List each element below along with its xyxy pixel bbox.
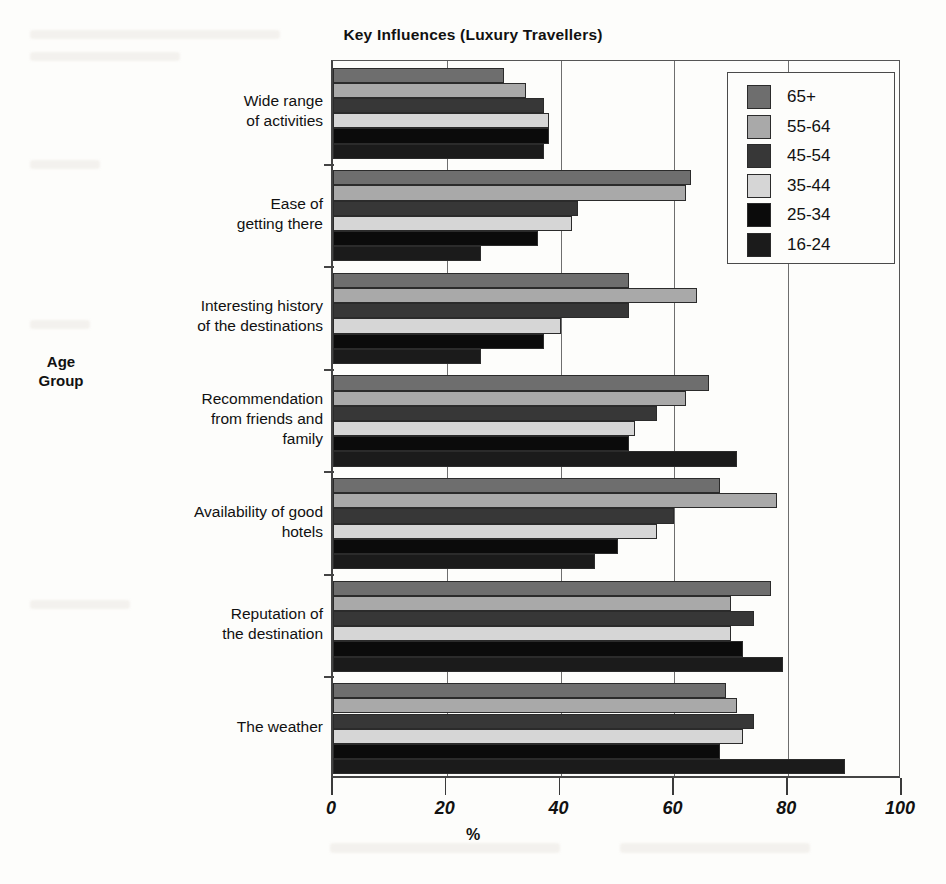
- y-axis-tick: [324, 574, 334, 576]
- bar[interactable]: [333, 611, 754, 626]
- bar[interactable]: [333, 451, 737, 466]
- category-label: Recommendationfrom friends andfamily: [98, 389, 323, 449]
- bar[interactable]: [333, 436, 629, 451]
- x-axis-label: 40: [549, 798, 569, 819]
- y-axis-title-line2: Group: [20, 371, 102, 390]
- x-axis-tick: [445, 778, 447, 795]
- bar[interactable]: [333, 349, 481, 364]
- bar[interactable]: [333, 524, 657, 539]
- bar[interactable]: [333, 231, 538, 246]
- legend-label: 45-54: [787, 146, 830, 166]
- category-label-line: hotels: [98, 522, 323, 542]
- x-axis-tick: [786, 778, 788, 795]
- bar-group: [333, 581, 899, 672]
- legend-swatch-icon: [747, 233, 771, 257]
- x-axis-tick: [900, 778, 902, 795]
- y-axis-tick: [324, 164, 334, 166]
- bar[interactable]: [333, 683, 726, 698]
- category-label: Wide rangeof activities: [98, 91, 323, 131]
- bar[interactable]: [333, 246, 481, 261]
- x-axis-tick: [331, 778, 333, 795]
- bar[interactable]: [333, 201, 578, 216]
- category-label: Interesting historyof the destinations: [98, 296, 323, 336]
- bar[interactable]: [333, 581, 771, 596]
- category-label-line: The weather: [98, 717, 323, 737]
- category-label-line: getting there: [98, 214, 323, 234]
- y-axis-tick: [324, 369, 334, 371]
- bar[interactable]: [333, 406, 657, 421]
- bar[interactable]: [333, 478, 720, 493]
- bar[interactable]: [333, 508, 674, 523]
- legend-item-16-24[interactable]: 16-24: [747, 233, 830, 257]
- bar[interactable]: [333, 83, 526, 98]
- category-label: Reputation ofthe destination: [98, 604, 323, 644]
- y-axis-tick: [324, 471, 334, 473]
- category-label-line: family: [98, 429, 323, 449]
- bar[interactable]: [333, 641, 743, 656]
- bar[interactable]: [333, 144, 544, 159]
- x-axis-label: 20: [435, 798, 455, 819]
- category-label-line: Availability of good: [98, 502, 323, 522]
- legend-item-25-34[interactable]: 25-34: [747, 203, 830, 227]
- bar[interactable]: [333, 698, 737, 713]
- legend-label: 65+: [787, 87, 816, 107]
- bar[interactable]: [333, 216, 572, 231]
- bar[interactable]: [333, 113, 549, 128]
- legend-swatch-icon: [747, 174, 771, 198]
- bar[interactable]: [333, 493, 777, 508]
- bar[interactable]: [333, 554, 595, 569]
- bar[interactable]: [333, 596, 731, 611]
- category-label-line: Ease of: [98, 194, 323, 214]
- bar[interactable]: [333, 128, 549, 143]
- bar[interactable]: [333, 421, 635, 436]
- legend-label: 16-24: [787, 235, 830, 255]
- category-label-line: of activities: [98, 111, 323, 131]
- bar[interactable]: [333, 744, 720, 759]
- bar[interactable]: [333, 318, 561, 333]
- legend-item-55-64[interactable]: 55-64: [747, 115, 830, 139]
- bar[interactable]: [333, 334, 544, 349]
- y-axis-tick: [324, 676, 334, 678]
- scan-artifact: [620, 843, 810, 853]
- bar[interactable]: [333, 375, 709, 390]
- bar[interactable]: [333, 714, 754, 729]
- category-label: Ease ofgetting there: [98, 194, 323, 234]
- category-label-line: of the destinations: [98, 316, 323, 336]
- bar[interactable]: [333, 68, 504, 83]
- bar-group: [333, 478, 899, 569]
- x-axis-label: 80: [776, 798, 796, 819]
- bar[interactable]: [333, 288, 697, 303]
- legend-swatch-icon: [747, 203, 771, 227]
- scan-artifact: [330, 843, 560, 853]
- legend-label: 35-44: [787, 176, 830, 196]
- bar[interactable]: [333, 391, 686, 406]
- bar[interactable]: [333, 185, 686, 200]
- y-axis-tick: [324, 266, 334, 268]
- bar[interactable]: [333, 170, 691, 185]
- bar-group: [333, 683, 899, 774]
- legend-item-65plus[interactable]: 65+: [747, 85, 816, 109]
- bar[interactable]: [333, 657, 783, 672]
- bar[interactable]: [333, 98, 544, 113]
- category-label: Availability of goodhotels: [98, 502, 323, 542]
- bar[interactable]: [333, 626, 731, 641]
- legend-item-35-44[interactable]: 35-44: [747, 174, 830, 198]
- x-axis-tick: [672, 778, 674, 795]
- category-label-line: Reputation of: [98, 604, 323, 624]
- y-axis-title: Age Group: [20, 352, 102, 390]
- bar[interactable]: [333, 273, 629, 288]
- legend-item-45-54[interactable]: 45-54: [747, 144, 830, 168]
- bar[interactable]: [333, 759, 845, 774]
- bar[interactable]: [333, 539, 618, 554]
- chart-title: Key Influences (Luxury Travellers): [0, 26, 946, 44]
- category-label-column: Wide rangeof activitiesEase ofgetting th…: [95, 60, 323, 778]
- bar[interactable]: [333, 303, 629, 318]
- y-axis-title-line1: Age: [20, 352, 102, 371]
- bar[interactable]: [333, 729, 743, 744]
- scan-artifact: [30, 320, 90, 329]
- legend-swatch-icon: [747, 85, 771, 109]
- x-axis-label: 60: [662, 798, 682, 819]
- category-label-line: the destination: [98, 624, 323, 644]
- category-label-line: from friends and: [98, 409, 323, 429]
- legend-label: 55-64: [787, 117, 830, 137]
